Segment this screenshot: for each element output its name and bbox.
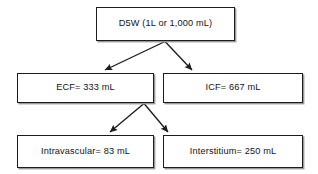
node-ecf: ECF= 333 mL xyxy=(17,73,154,103)
node-intravascular: Intravascular= 83 mL xyxy=(17,135,154,168)
edge-source-to-icf xyxy=(165,42,192,71)
node-label: Interstitium= 250 mL xyxy=(190,147,277,156)
node-label: D5W (1L or 1,000 mL) xyxy=(119,19,213,28)
flowchart-diagram: D5W (1L or 1,000 mL) ECF= 333 mL ICF= 66… xyxy=(0,0,318,174)
node-interstitium: Interstitium= 250 mL xyxy=(163,135,303,168)
edge-ecf-to-intravascular xyxy=(110,104,144,133)
edge-source-to-ecf xyxy=(105,42,165,71)
node-d5w-source: D5W (1L or 1,000 mL) xyxy=(96,7,235,41)
node-label: ECF= 333 mL xyxy=(56,83,115,92)
edge-ecf-to-interstitium xyxy=(144,104,168,133)
node-label: ICF= 667 mL xyxy=(205,83,260,92)
node-label: Intravascular= 83 mL xyxy=(41,147,130,156)
node-icf: ICF= 667 mL xyxy=(163,73,303,103)
